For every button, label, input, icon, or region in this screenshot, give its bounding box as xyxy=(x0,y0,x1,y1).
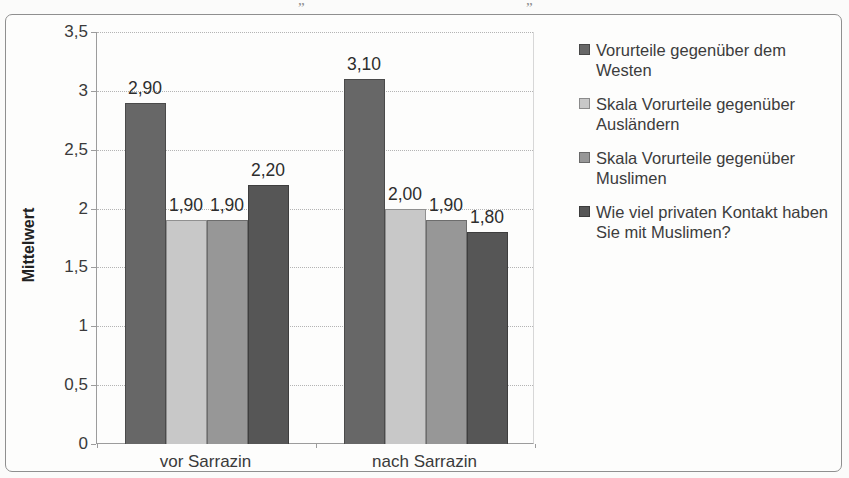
bar-4-cat-1 xyxy=(248,185,289,444)
bar-value-label: 2,90 xyxy=(115,79,175,97)
y-tick-label: 2,5 xyxy=(44,141,88,159)
bar-value-label: 2,20 xyxy=(238,161,298,179)
y-tick xyxy=(91,267,96,268)
y-tick-label: 3,5 xyxy=(44,23,88,41)
x-tick xyxy=(97,444,98,448)
legend: Vorurteile gegenüber dem WestenSkala Vor… xyxy=(579,40,837,256)
legend-swatch xyxy=(579,206,590,217)
legend-label: Wie viel privaten Kontakt haben Sie mit … xyxy=(596,202,837,242)
page: „ „ Mittelwert 2,901,901,902,203,102,001… xyxy=(0,0,849,478)
y-tick xyxy=(91,326,96,327)
x-tick xyxy=(535,444,536,448)
bar-4-cat-2 xyxy=(467,232,508,444)
y-tick xyxy=(91,444,96,445)
x-tick xyxy=(316,444,317,448)
bar-value-label: 3,10 xyxy=(334,55,394,73)
legend-item: Skala Vorurteile gegenüber Muslimen xyxy=(579,148,837,188)
bar-3-cat-1 xyxy=(207,220,248,444)
y-tick xyxy=(91,32,96,33)
legend-item: Vorurteile gegenüber dem Westen xyxy=(579,40,837,80)
y-tick xyxy=(91,209,96,210)
legend-label: Vorurteile gegenüber dem Westen xyxy=(596,40,837,80)
cropped-caption-mark: „ xyxy=(298,0,305,9)
y-tick-label: 0,5 xyxy=(44,376,88,394)
y-tick-label: 3 xyxy=(44,82,88,100)
y-axis-title: Mittelwert xyxy=(20,185,40,305)
legend-swatch xyxy=(579,98,590,109)
bar-2-cat-2 xyxy=(385,209,426,444)
legend-label: Skala Vorurteile gegenüber Ausländern xyxy=(596,94,837,134)
plot-area: 2,901,901,902,203,102,001,901,80 xyxy=(96,32,534,444)
gridline xyxy=(97,32,533,33)
y-tick xyxy=(91,385,96,386)
y-tick-label: 2 xyxy=(44,200,88,218)
x-category-label: nach Sarrazin xyxy=(355,452,495,472)
x-category-label: vor Sarrazin xyxy=(136,452,276,472)
y-tick xyxy=(91,91,96,92)
y-tick-label: 1 xyxy=(44,317,88,335)
bar-3-cat-2 xyxy=(426,220,467,444)
bar-1-cat-1 xyxy=(125,103,166,444)
bar-1-cat-2 xyxy=(344,79,385,444)
cropped-caption-mark: „ xyxy=(526,0,533,9)
legend-swatch xyxy=(579,44,590,55)
bar-2-cat-1 xyxy=(166,220,207,444)
chart-frame: Mittelwert 2,901,901,902,203,102,001,901… xyxy=(5,14,842,472)
legend-item: Wie viel privaten Kontakt haben Sie mit … xyxy=(579,202,837,242)
bar-value-label: 1,80 xyxy=(457,208,517,226)
legend-swatch xyxy=(579,152,590,163)
y-tick-label: 1,5 xyxy=(44,258,88,276)
y-tick-label: 0 xyxy=(44,435,88,453)
legend-item: Skala Vorurteile gegenüber Ausländern xyxy=(579,94,837,134)
y-tick xyxy=(91,150,96,151)
legend-label: Skala Vorurteile gegenüber Muslimen xyxy=(596,148,837,188)
